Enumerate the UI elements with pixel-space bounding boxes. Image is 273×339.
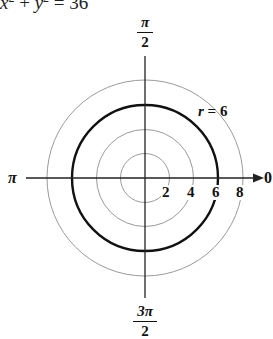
label-denominator: 2 <box>133 324 157 339</box>
fraction-bar <box>137 32 153 33</box>
tick-label-6: 6 <box>212 185 220 200</box>
curve-label-text: r = 6 <box>198 103 227 119</box>
label-numerator: 3π <box>133 304 157 319</box>
label-denominator: 2 <box>137 35 153 50</box>
angle-label-0: 0 <box>264 170 272 186</box>
arrow-right-icon <box>253 174 264 183</box>
angle-label-3pi-over-2: 3π 2 <box>133 304 157 339</box>
tick-label-8: 8 <box>236 185 244 200</box>
tick-label-4: 4 <box>187 185 195 200</box>
angle-label-pi-over-2: π 2 <box>137 15 153 50</box>
angle-label-pi: π <box>8 170 17 186</box>
fraction-bar <box>133 321 157 322</box>
label-numerator: π <box>137 15 153 30</box>
tick-label-2: 2 <box>162 185 170 200</box>
curve-label-r6: r = 6 <box>198 104 227 119</box>
